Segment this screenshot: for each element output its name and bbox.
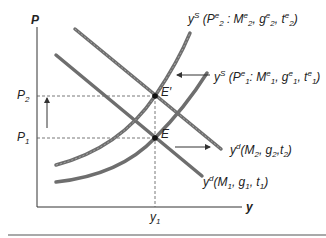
e-prime-label: E′: [161, 86, 171, 98]
supply-curve-2: [56, 33, 190, 165]
supply-curve-1-label: yS (Pe1: Me1, ge1, te1): [214, 70, 320, 86]
demand-curve-1-label: yd(M1, g1, t1): [203, 175, 268, 191]
diagram-canvas: [0, 0, 326, 238]
equilibrium-point-e: [152, 135, 158, 141]
output-axis-label: y: [246, 201, 253, 213]
e-label: E: [161, 128, 169, 140]
p1-label: P1: [17, 131, 29, 146]
demand-curve-2-label: yd(M2, g2,t2): [230, 143, 292, 159]
y1-label: y1: [150, 211, 160, 226]
supply-curve-2-label: yS (Pe2 : Me2, ge2, te2): [188, 12, 298, 28]
equilibrium-point-e-prime: [152, 93, 158, 99]
p2-label: P2: [17, 89, 29, 104]
supply-curve-1: [56, 73, 207, 182]
price-axis-label: P: [31, 14, 39, 26]
